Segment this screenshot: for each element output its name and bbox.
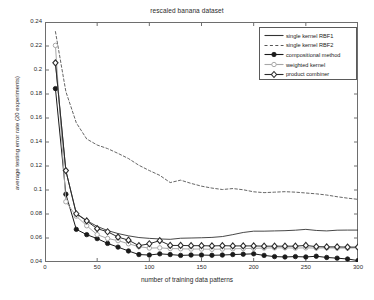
data-point-marker [199,253,203,257]
x-tick-label: 200 [239,264,269,270]
legend-swatch [263,31,285,40]
data-point-marker [314,254,318,258]
data-point-marker [147,253,151,257]
data-point-marker [64,200,68,204]
x-tick-label: 100 [134,264,164,270]
chart-title: rescaled banana dataset [0,7,374,14]
data-point-marker [272,62,276,66]
data-point-marker [137,252,141,256]
data-point-marker [251,252,255,256]
data-point-marker [158,252,162,256]
data-point-marker [356,258,358,262]
y-tick-label: 0.24 [10,18,42,24]
x-axis-label: number of training data patterns [0,276,374,283]
chart-figure: rescaled banana dataset average testing … [0,0,374,300]
y-tick-label: 0.1 [10,186,42,192]
y-tick-label: 0.22 [10,42,42,48]
legend-swatch [263,60,285,69]
series-line [55,89,358,261]
y-tick-label: 0.06 [10,234,42,240]
data-point-marker [53,43,57,47]
y-tick-label: 0.16 [10,114,42,120]
legend-item: single kernel RBF1 [263,31,354,41]
legend-swatch [263,41,285,50]
series-line [55,63,358,247]
legend-item: compositional method [263,50,354,60]
data-point-marker [345,257,349,261]
legend-swatch [263,70,285,79]
legend-item: weighted kernel [263,60,354,70]
legend-label: single kernel RBF1 [285,33,333,39]
data-point-marker [95,232,99,236]
data-point-marker [147,241,152,247]
y-tick-label: 0.12 [10,162,42,168]
legend-item: single kernel RBF2 [263,41,354,51]
data-point-marker [189,253,193,257]
legend-label: weighted kernel [285,62,325,68]
data-point-marker [168,252,172,256]
data-point-marker [158,246,162,250]
x-tick-label: 250 [291,264,321,270]
data-point-marker [53,86,57,90]
data-point-marker [241,252,245,256]
data-point-marker [53,60,58,66]
x-tick-label: 50 [82,264,112,270]
x-tick-label: 0 [30,264,60,270]
data-point-marker [74,227,78,231]
legend-label: product combiner [285,71,329,77]
data-point-marker [231,252,235,256]
data-point-marker [105,236,109,240]
x-tick-label: 150 [187,264,217,270]
data-point-marker [178,253,182,257]
data-point-marker [210,253,214,257]
data-point-marker [325,255,329,259]
data-point-marker [283,255,287,259]
data-point-marker [105,241,109,245]
data-point-marker [220,253,224,257]
x-tick-label: 300 [343,264,373,270]
legend-label: single kernel RBF2 [285,42,333,48]
data-point-marker [126,249,130,253]
data-point-marker [272,254,276,258]
legend-item: product combiner [263,69,354,79]
data-point-marker [262,253,266,257]
data-point-marker [304,255,308,259]
y-tick-label: 0.18 [10,90,42,96]
data-point-marker [293,254,297,258]
y-tick-label: 0.2 [10,66,42,72]
data-point-marker [95,226,100,232]
data-point-marker [272,53,276,57]
data-point-marker [271,71,276,77]
series-product-combiner [53,60,358,250]
y-tick-label: 0.14 [10,138,42,144]
series-line [55,63,358,240]
y-tick-label: 0.08 [10,210,42,216]
legend-label: compositional method [285,52,340,58]
series-single-kernel-rbf1 [55,63,358,240]
legend-swatch [263,50,285,59]
data-point-marker [85,232,89,236]
data-point-marker [335,256,339,260]
data-point-marker [116,245,120,249]
chart-legend: single kernel RBF1single kernel RBF2comp… [259,27,357,80]
